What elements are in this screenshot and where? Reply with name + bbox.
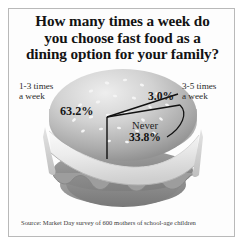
slice-label-1-3-times: 1-3 times a week <box>19 81 77 102</box>
slice-value-3-5-times: 3.0% <box>148 90 174 103</box>
title-line-2: you choose fast food as a <box>9 30 235 47</box>
slice-label-never: Never 33.8% <box>117 120 173 145</box>
slice-value-never: 33.8% <box>117 132 173 145</box>
title-line-3: dining option for your family? <box>9 46 235 63</box>
page-title: How many times a week do you choose fast… <box>9 13 235 63</box>
slice-label-3-5-times: 3-5 times a week <box>182 81 235 102</box>
slice-value-1-3-times: 63.2% <box>60 104 94 119</box>
source-note: Source: Market Day survey of 600 mothers… <box>21 219 227 227</box>
pie-chart-burger: 1-3 times a week 3-5 times a week 63.2% … <box>9 65 235 215</box>
infographic-panel: How many times a week do you choose fast… <box>8 8 235 237</box>
title-line-1: How many times a week do <box>9 13 235 30</box>
